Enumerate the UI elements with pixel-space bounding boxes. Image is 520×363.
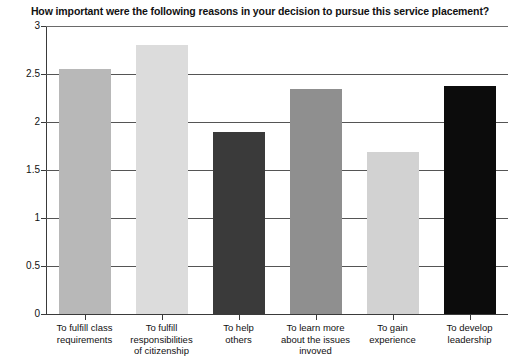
bar xyxy=(59,69,111,314)
bar xyxy=(290,89,342,314)
y-tick-label-2.5: 2.5 xyxy=(6,69,40,79)
x-axis-label-line: invoved xyxy=(277,345,354,357)
gridline-1 xyxy=(46,218,508,219)
x-axis-label-line: of citizenship xyxy=(123,345,200,357)
x-axis-label-line: leadership xyxy=(431,334,508,346)
x-axis-label: To fulfill classrequirements xyxy=(46,322,123,345)
x-tick-mark xyxy=(393,315,394,320)
x-axis-label-line: requirements xyxy=(46,334,123,346)
chart-title: How important were the following reasons… xyxy=(0,5,520,17)
x-tick-mark xyxy=(239,315,240,320)
y-tick-label-1.5: 1.5 xyxy=(6,165,40,175)
gridline-1.5 xyxy=(46,170,508,171)
y-tick-label-0.5: 0.5 xyxy=(6,261,40,271)
x-axis-label-line: To help xyxy=(200,322,277,334)
x-axis-label: To gainexperience xyxy=(354,322,431,345)
y-tick-label-2: 2 xyxy=(6,117,40,127)
bar-chart: How important were the following reasons… xyxy=(0,0,520,363)
gridline-0 xyxy=(46,314,508,315)
x-axis-label-line: experience xyxy=(354,334,431,346)
y-tick-label-0: 0 xyxy=(6,309,40,319)
gridline-2.5 xyxy=(46,74,508,75)
gridline-3 xyxy=(46,26,508,27)
bar xyxy=(136,45,188,314)
x-axis-label: To fulfillresponsibilitiesof citizenship xyxy=(123,322,200,357)
x-tick-mark xyxy=(316,315,317,320)
x-tick-mark xyxy=(85,315,86,320)
x-axis-label-line: responsibilities xyxy=(123,334,200,346)
x-axis-label-line: To fulfill class xyxy=(46,322,123,334)
x-axis-label: To developleadership xyxy=(431,322,508,345)
gridline-2 xyxy=(46,122,508,123)
plot-area xyxy=(46,26,508,314)
y-axis-ticks: 00.511.522.53 xyxy=(0,26,40,314)
x-axis-label-line: others xyxy=(200,334,277,346)
x-axis-label-line: To learn more xyxy=(277,322,354,334)
x-axis-label-line: To fulfill xyxy=(123,322,200,334)
y-tick-label-3: 3 xyxy=(6,21,40,31)
x-tick-mark xyxy=(162,315,163,320)
x-tick-mark xyxy=(470,315,471,320)
bar xyxy=(367,152,419,314)
x-axis-label: To helpothers xyxy=(200,322,277,345)
x-axis-label-line: To gain xyxy=(354,322,431,334)
gridline-0.5 xyxy=(46,266,508,267)
x-axis-label-line: about the issues xyxy=(277,334,354,346)
x-axis-label: To learn moreabout the issuesinvoved xyxy=(277,322,354,357)
y-tick-label-1: 1 xyxy=(6,213,40,223)
x-axis-label-line: To develop xyxy=(431,322,508,334)
bar xyxy=(213,132,265,314)
bar xyxy=(444,86,496,314)
